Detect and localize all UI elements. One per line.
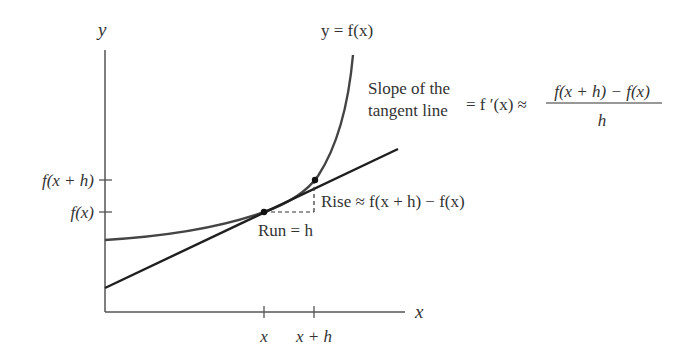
slope-denominator: h [598, 111, 607, 130]
slope-numerator: f(x + h) − f(x) [554, 82, 650, 101]
point-x [261, 209, 267, 215]
rise-label: Rise ≈ f(x + h) − f(x) [321, 192, 465, 211]
y-axis-label: y [96, 19, 107, 40]
tangent-line [105, 149, 398, 288]
slope-text-line1: Slope of the [368, 79, 450, 98]
tangent-line-diagram: y x f(x + h) f(x) x x + h y = f(x) Rise … [0, 0, 689, 353]
y-tick-label-fxh: f(x + h) [42, 171, 94, 190]
run-label: Run = h [258, 221, 313, 240]
function-curve [105, 55, 353, 240]
y-tick-label-fx: f(x) [70, 203, 94, 222]
curve-label: y = f(x) [321, 21, 373, 40]
slope-equals: = f ′(x) ≈ [466, 95, 527, 114]
point-xh [312, 177, 318, 183]
slope-text-line2: tangent line [368, 101, 448, 120]
x-axis-label: x [414, 301, 424, 322]
x-tick-label-xh: x + h [295, 327, 332, 346]
x-tick-label-x: x [259, 327, 268, 346]
